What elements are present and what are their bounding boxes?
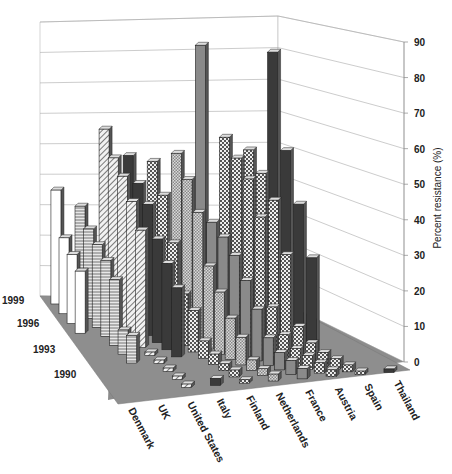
category-label: UK (156, 402, 174, 421)
category-label: Italy (215, 396, 236, 420)
bar (297, 366, 310, 379)
category-label: Finland (244, 393, 272, 432)
bar (210, 375, 223, 385)
y-tick-label: 70 (414, 108, 426, 119)
bar (172, 373, 185, 379)
bar (343, 362, 356, 372)
bar (268, 371, 281, 381)
category-label: Spain (362, 381, 386, 412)
y-tick-label: 80 (414, 73, 426, 84)
year-label: 1990 (54, 369, 77, 380)
category-label: Denmark (126, 405, 158, 450)
bar (136, 227, 149, 347)
category-label: Thailand (392, 378, 423, 422)
y-tick-label: 40 (414, 215, 426, 226)
bar (172, 285, 185, 357)
bar (239, 377, 252, 383)
y-tick-label: 60 (414, 144, 426, 155)
category-label: Austria (333, 384, 361, 422)
bar (326, 367, 339, 377)
y-tick-label: 50 (414, 179, 426, 190)
bar (229, 367, 242, 377)
chart-3d-bar: 01020304050607080901999199619931990Denma… (0, 0, 452, 474)
y-tick-label: 10 (414, 321, 426, 332)
bar (75, 268, 88, 333)
y-tick-label: 30 (414, 250, 426, 261)
y-tick-label: 20 (414, 286, 426, 297)
bar (145, 349, 158, 355)
year-label: 1999 (2, 295, 25, 306)
year-label: 1993 (33, 344, 56, 355)
bar (163, 365, 176, 371)
bar (127, 332, 140, 363)
bar (384, 366, 397, 372)
bar (209, 351, 222, 364)
bar (181, 381, 194, 387)
y-tick-label: 0 (414, 357, 420, 368)
bar (154, 357, 167, 363)
y-tick-label: 90 (414, 37, 426, 48)
category-label: France (303, 387, 330, 423)
year-label: 1996 (17, 318, 40, 329)
y-axis-title: Percent resistance (%) (432, 147, 443, 248)
bar (314, 360, 327, 373)
bar (355, 368, 368, 374)
